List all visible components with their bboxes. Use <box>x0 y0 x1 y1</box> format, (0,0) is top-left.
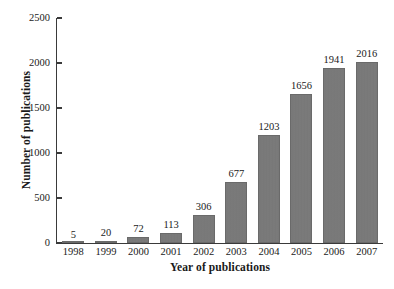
bar-group: 1941 <box>318 18 351 243</box>
bar-group: 113 <box>155 18 188 243</box>
bar-2005[interactable] <box>290 94 312 243</box>
bar-group: 72 <box>122 18 155 243</box>
x-axis-label-2004: 2004 <box>253 246 286 257</box>
bar-value-label: 1941 <box>324 54 345 65</box>
x-axis-label-2007: 2007 <box>350 246 383 257</box>
bar-2004[interactable] <box>258 135 280 243</box>
x-axis-label-2003: 2003 <box>220 246 253 257</box>
bar-value-label: 20 <box>101 227 112 238</box>
x-axis-label-1999: 1999 <box>90 246 123 257</box>
bar-value-label: 72 <box>133 223 144 234</box>
y-axis-tick-label: 2000 <box>6 58 50 69</box>
bar-value-label: 2016 <box>356 48 377 59</box>
bar-chart: Number of publications 05001000150020002… <box>0 0 394 289</box>
bar-2003[interactable] <box>225 182 247 243</box>
bar-value-label: 677 <box>228 168 244 179</box>
bar-value-label: 113 <box>163 219 178 230</box>
bar-value-label: 306 <box>196 201 212 212</box>
y-axis-tick-label: 1000 <box>6 148 50 159</box>
bar-2007[interactable] <box>356 62 378 243</box>
x-axis-label-2002: 2002 <box>187 246 220 257</box>
bar-value-label: 5 <box>71 229 76 240</box>
x-axis-label-1998: 1998 <box>57 246 90 257</box>
bar-group: 5 <box>57 18 90 243</box>
bar-group: 677 <box>220 18 253 243</box>
x-axis-label-2006: 2006 <box>318 246 351 257</box>
y-axis-tick-label: 0 <box>6 238 50 249</box>
bar-value-label: 1203 <box>258 121 279 132</box>
bar-2001[interactable] <box>160 233 182 243</box>
bar-2002[interactable] <box>193 215 215 243</box>
bar-group: 20 <box>90 18 123 243</box>
x-axis-title: Year of publications <box>56 261 384 273</box>
x-axis-label-2005: 2005 <box>285 246 318 257</box>
bar-group: 306 <box>187 18 220 243</box>
bar-group: 1656 <box>285 18 318 243</box>
x-axis-label-2001: 2001 <box>155 246 188 257</box>
bar-group: 1203 <box>253 18 286 243</box>
bar-2006[interactable] <box>323 68 345 243</box>
y-axis-tick-label: 500 <box>6 193 50 204</box>
bar-value-label: 1656 <box>291 80 312 91</box>
bar-group: 2016 <box>350 18 383 243</box>
plot-area: 520721133066771203165619412016 <box>57 18 383 243</box>
y-axis-tick-label: 2500 <box>6 13 50 24</box>
bar-1999[interactable] <box>95 241 117 243</box>
bar-2000[interactable] <box>127 237 149 243</box>
bar-1998[interactable] <box>62 241 84 243</box>
y-axis-tick-label: 1500 <box>6 103 50 114</box>
x-axis-label-2000: 2000 <box>122 246 155 257</box>
